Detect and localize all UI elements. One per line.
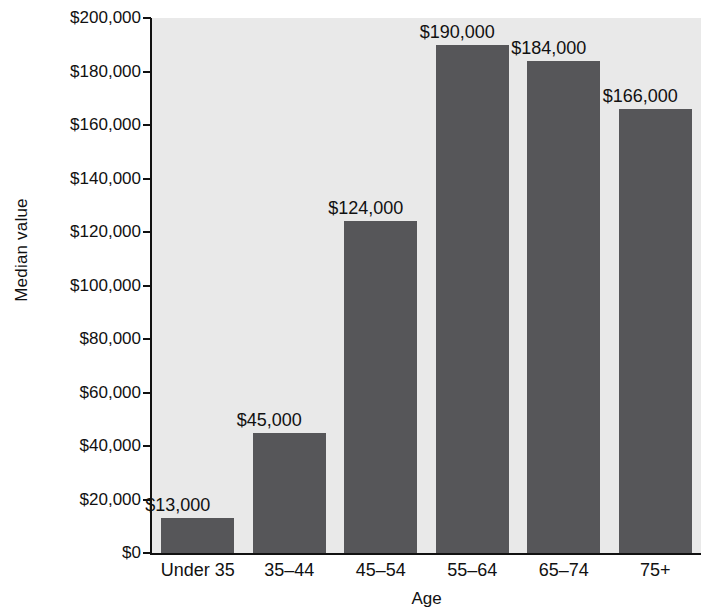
bar-chart-figure: Median value $0$20,000$40,000$60,000$80,… — [0, 0, 710, 616]
y-axis-tick-mark — [143, 231, 151, 233]
bar — [161, 518, 234, 553]
y-axis-tick-label: $120,000 — [0, 223, 141, 240]
x-axis-tick-label: 35–44 — [244, 560, 336, 580]
y-axis-tick-label: $200,000 — [0, 9, 141, 26]
x-axis-tick-label: 65–74 — [518, 560, 610, 580]
bar-value-label: $45,000 — [237, 411, 302, 429]
x-axis-tick-label: 75+ — [610, 560, 702, 580]
x-axis-tick-label: 55–64 — [427, 560, 519, 580]
y-axis-tick-mark — [143, 285, 151, 287]
y-axis-tick-mark — [143, 392, 151, 394]
bar-value-label: $124,000 — [328, 199, 403, 217]
y-axis-tick-label: $160,000 — [0, 116, 141, 133]
y-axis-tick-label-group: $0$20,000$40,000$60,000$80,000$100,000$1… — [0, 0, 141, 616]
y-axis-tick-mark — [143, 71, 151, 73]
y-axis-tick-label: $0 — [0, 544, 141, 561]
bar — [344, 221, 417, 553]
y-axis-tick-mark — [143, 552, 151, 554]
y-axis-tick-mark — [143, 338, 151, 340]
bar-value-label: $13,000 — [145, 496, 210, 514]
x-axis-tick-label-group: Under 3535–4445–5455–6465–7475+ — [152, 560, 701, 584]
y-axis-tick-mark — [143, 178, 151, 180]
bar — [253, 433, 326, 553]
y-axis-tick-label: $60,000 — [0, 384, 141, 401]
y-axis-tick-label: $20,000 — [0, 491, 141, 508]
y-axis-tick-mark — [143, 17, 151, 19]
x-axis-line — [150, 553, 701, 555]
y-axis-tick-label: $180,000 — [0, 63, 141, 80]
x-axis-tick-label: 45–54 — [335, 560, 427, 580]
y-axis-tick-label: $100,000 — [0, 277, 141, 294]
bar-value-label: $184,000 — [511, 39, 586, 57]
bar — [436, 45, 509, 553]
bar — [527, 61, 600, 553]
y-axis-tick-label: $140,000 — [0, 170, 141, 187]
y-axis-tick-mark — [143, 445, 151, 447]
y-axis-tick-label: $40,000 — [0, 437, 141, 454]
bar-value-label: $166,000 — [603, 87, 678, 105]
x-axis-tick-label: Under 35 — [152, 560, 244, 580]
bar-value-label: $190,000 — [420, 23, 495, 41]
x-axis-title: Age — [152, 589, 701, 609]
bar — [619, 109, 692, 553]
y-axis-tick-label: $80,000 — [0, 330, 141, 347]
y-axis-tick-mark — [143, 124, 151, 126]
